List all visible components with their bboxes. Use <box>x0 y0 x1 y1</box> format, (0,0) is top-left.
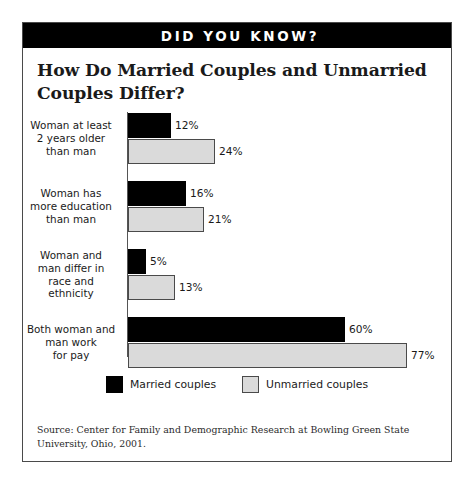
bar-group: Woman hasmore educationthan man16%21% <box>23 180 451 232</box>
category-label: Woman hasmore educationthan man <box>23 187 119 225</box>
legend-item-married: Married couples <box>106 376 216 393</box>
bar-value-label: 12% <box>175 119 199 131</box>
bar-row: 5% <box>128 248 167 274</box>
bar-married <box>128 113 171 138</box>
bar-value-label: 16% <box>190 187 214 199</box>
banner: DID YOU KNOW? <box>23 23 451 48</box>
bar-row: 13% <box>128 274 203 300</box>
bar-value-label: 5% <box>150 255 167 267</box>
bar-value-label: 13% <box>179 281 203 293</box>
bar-unmarried <box>128 207 204 232</box>
bar-unmarried <box>128 343 407 368</box>
bar-row: 24% <box>128 138 243 164</box>
legend-item-unmarried: Unmarried couples <box>242 376 368 393</box>
bar-row: 16% <box>128 180 214 206</box>
bar-married <box>128 181 186 206</box>
bar-row: 77% <box>128 342 435 368</box>
did-you-know-figure: DID YOU KNOW? How Do Married Couples and… <box>22 22 452 462</box>
source-note: Source: Center for Family and Demographi… <box>23 423 451 461</box>
bar-group: Both woman andman workfor pay60%77% <box>23 316 451 368</box>
bar-group: Woman at least2 years olderthan man12%24… <box>23 112 451 164</box>
category-label: Both woman andman workfor pay <box>23 323 119 361</box>
category-label: Woman at least2 years olderthan man <box>23 119 119 157</box>
legend-label-unmarried: Unmarried couples <box>266 378 368 391</box>
category-label: Woman andman differ inrace andethnicity <box>23 249 119 300</box>
bar-value-label: 21% <box>208 213 232 225</box>
page-title: How Do Married Couples and Unmarried Cou… <box>23 48 451 104</box>
bar-chart: Woman at least2 years olderthan man12%24… <box>23 110 451 422</box>
bar-married <box>128 317 345 342</box>
chart-legend: Married couples Unmarried couples <box>23 376 451 393</box>
legend-label-married: Married couples <box>130 378 216 391</box>
bar-group: Woman andman differ inrace andethnicity5… <box>23 248 451 300</box>
bar-value-label: 77% <box>411 349 435 361</box>
bar-row: 12% <box>128 112 199 138</box>
banner-title: DID YOU KNOW? <box>155 28 319 44</box>
legend-swatch-unmarried <box>242 376 259 393</box>
legend-swatch-married <box>106 376 123 393</box>
bar-married <box>128 249 146 274</box>
bar-unmarried <box>128 139 215 164</box>
bar-unmarried <box>128 275 175 300</box>
bar-row: 21% <box>128 206 232 232</box>
bar-value-label: 24% <box>219 145 243 157</box>
bar-value-label: 60% <box>349 323 373 335</box>
bar-row: 60% <box>128 316 373 342</box>
